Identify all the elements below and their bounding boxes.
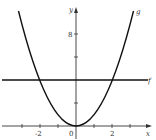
f-label: f — [147, 77, 152, 85]
x-axis-label: x — [146, 130, 150, 138]
series-f: f — [2, 77, 152, 85]
x-axis-arrow-icon — [146, 124, 152, 128]
y-axis: 8 y — [68, 6, 78, 139]
x-tick-label-neg2: -2 — [35, 130, 42, 138]
function-graph: -2 0 2 x 8 y f g — [0, 0, 156, 140]
y-axis-arrow-icon — [74, 7, 78, 13]
y-tick-label-8: 8 — [68, 31, 72, 39]
series-g: g — [19, 8, 142, 126]
y-axis-label: y — [68, 6, 74, 14]
x-tick-label-0: 0 — [69, 130, 73, 138]
x-tick-label-2: 2 — [110, 130, 114, 138]
g-label: g — [136, 8, 141, 16]
